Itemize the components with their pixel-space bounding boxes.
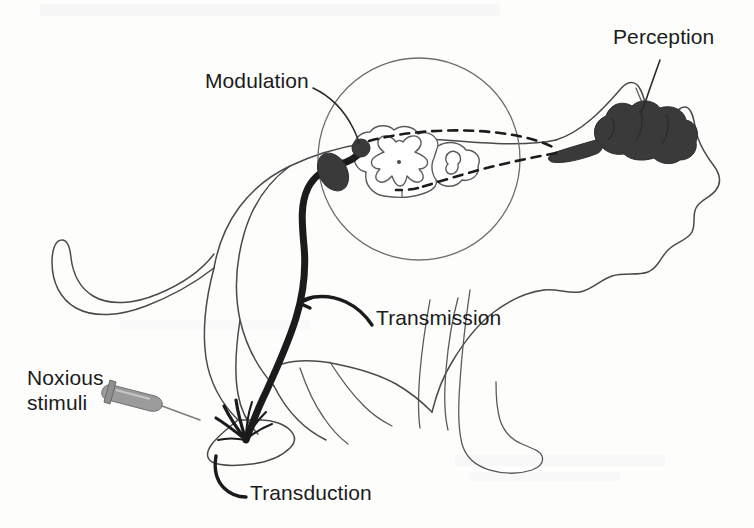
brain-icon (549, 101, 698, 164)
syringe-icon (102, 380, 200, 420)
pain-pathway-diagram: Modulation Perception Transmission Trans… (0, 0, 754, 528)
scan-bleed-through-artifact (40, 4, 665, 481)
label-modulation: Modulation (205, 69, 309, 92)
label-perception: Perception (613, 25, 714, 48)
primary-afferent-nerve (246, 139, 370, 440)
label-noxious-line2: stimuli (27, 391, 87, 414)
modulation-leader-line (313, 88, 359, 143)
label-transduction: Transduction (250, 481, 372, 504)
transduction-leader-line (215, 456, 246, 497)
dorsal-horn-synapse-icon (352, 139, 370, 157)
diagram-canvas: Modulation Perception Transmission Trans… (0, 0, 754, 528)
label-noxious-line1: Noxious (27, 366, 104, 389)
label-transmission: Transmission (376, 306, 501, 329)
